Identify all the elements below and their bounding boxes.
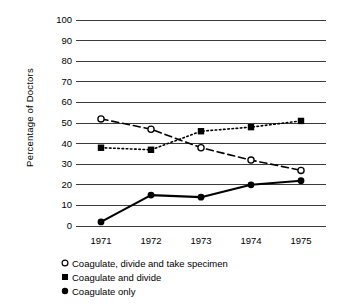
- x-tick-label: 1975: [277, 236, 325, 246]
- data-point-square: [298, 118, 304, 124]
- x-axis-tick-labels: 19711972197319741975: [76, 236, 326, 250]
- data-point-square: [248, 124, 254, 130]
- x-tick-label: 1974: [227, 236, 275, 246]
- y-axis-tick-labels: 1009080706050403020100: [28, 20, 72, 226]
- chart-figure: Percentage of Doctors 100908070605040302…: [0, 0, 341, 306]
- y-tick-label: 60: [32, 97, 72, 107]
- y-tick-label: 50: [32, 118, 72, 128]
- open-circle-icon: [58, 256, 72, 270]
- legend-item: Coagulate, divide and take specimen: [58, 256, 338, 270]
- data-point-filled-circle: [148, 192, 155, 199]
- data-point-filled-circle: [198, 194, 205, 201]
- y-tick-label: 0: [32, 221, 72, 231]
- x-tick-label: 1972: [127, 236, 175, 246]
- filled-circle-icon: [58, 284, 72, 298]
- legend-label: Coagulate and divide: [72, 272, 161, 283]
- y-tick-label: 90: [32, 36, 72, 46]
- data-point-square: [98, 145, 104, 151]
- legend-item: Coagulate only: [58, 284, 338, 298]
- series-layer: [76, 20, 326, 226]
- data-point-filled-circle: [248, 181, 255, 188]
- data-point-open-circle: [198, 145, 204, 151]
- plot-area: [76, 20, 326, 226]
- data-point-filled-circle: [298, 177, 305, 184]
- legend-item: Coagulate and divide: [58, 270, 338, 284]
- y-tick-label: 30: [32, 159, 72, 169]
- x-tick-label: 1973: [177, 236, 225, 246]
- filled-square-icon: [58, 270, 72, 284]
- chart-legend: Coagulate, divide and take specimenCoagu…: [58, 256, 338, 298]
- data-point-square: [198, 128, 204, 134]
- y-tick-label: 40: [32, 139, 72, 149]
- data-point-filled-circle: [98, 218, 105, 225]
- data-point-open-circle: [248, 157, 254, 163]
- y-tick-label: 20: [32, 180, 72, 190]
- series-line: [101, 181, 301, 222]
- legend-label: Coagulate, divide and take specimen: [72, 258, 228, 269]
- y-tick-label: 80: [32, 56, 72, 66]
- data-point-square: [148, 147, 154, 153]
- legend-label: Coagulate only: [72, 286, 135, 297]
- y-tick-label: 10: [32, 200, 72, 210]
- y-tick-label: 100: [32, 15, 72, 25]
- data-point-open-circle: [98, 116, 104, 122]
- series-3: [98, 177, 305, 225]
- data-point-open-circle: [298, 167, 304, 173]
- x-tick-label: 1971: [77, 236, 125, 246]
- y-tick-label: 70: [32, 77, 72, 87]
- data-point-open-circle: [148, 126, 154, 132]
